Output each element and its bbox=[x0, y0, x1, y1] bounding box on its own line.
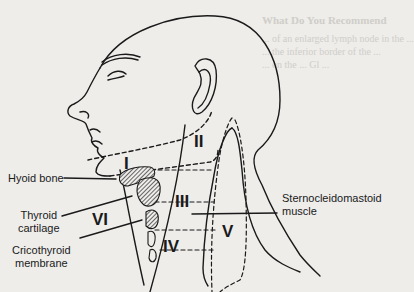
label-line: Thyroid bbox=[18, 209, 60, 222]
cricoid bbox=[146, 210, 158, 228]
label-line: cartilage bbox=[18, 222, 60, 235]
level-II-label: II bbox=[194, 132, 203, 152]
thyroid-cartilage-label: Thyroid cartilage bbox=[18, 209, 60, 235]
label-line: muscle bbox=[282, 205, 382, 218]
sternocleidomastoid-label: Sternocleidomastoid muscle bbox=[282, 192, 382, 218]
label-line: Cricothyroid bbox=[12, 244, 71, 257]
hyoid-bone-label: Hyoid bone bbox=[8, 172, 64, 185]
label-line: Sternocleidomastoid bbox=[282, 192, 382, 205]
ear bbox=[192, 59, 216, 114]
label-line: membrane bbox=[12, 257, 71, 270]
level-IV-label: IV bbox=[163, 237, 179, 257]
thyroid-cartilage bbox=[137, 178, 160, 206]
level-I-label: I bbox=[124, 154, 129, 174]
level-V-label: V bbox=[222, 222, 233, 242]
cricothyroid-membrane-label: Cricothyroid membrane bbox=[12, 244, 71, 270]
level-VI-label: VI bbox=[92, 210, 108, 230]
level-III-label: III bbox=[175, 192, 189, 212]
